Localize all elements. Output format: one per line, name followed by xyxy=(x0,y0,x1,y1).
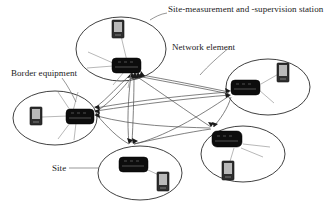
link-left-bottomright xyxy=(97,116,210,128)
intra-line-left-5 xyxy=(74,123,76,140)
intra-site-lines xyxy=(42,36,282,176)
network-topology-diagram: Site-measurement and -supervision statio… xyxy=(0,0,326,212)
intra-line-left-2 xyxy=(58,92,70,110)
inter-site-links xyxy=(95,73,231,144)
measurement-station-right-screen xyxy=(279,65,287,76)
router-bottom-right[interactable] xyxy=(212,131,242,147)
router-bottom-right-body xyxy=(212,131,242,147)
measurement-station-right-base xyxy=(280,78,286,80)
router-top-body xyxy=(112,58,141,73)
measurement-station-right[interactable] xyxy=(277,63,289,82)
measurement-station-bottom-right[interactable] xyxy=(222,161,234,180)
measurement-station-br-base xyxy=(225,176,231,178)
intra-line-br-1 xyxy=(243,144,270,147)
measurement-station-top-base xyxy=(115,34,121,36)
link-bottomcenter-bottomright xyxy=(134,129,211,144)
router-top[interactable] xyxy=(112,58,141,73)
intra-line-top-1 xyxy=(121,36,127,61)
measurement-station-left[interactable] xyxy=(30,107,42,125)
router-left-body xyxy=(66,109,94,124)
router-bottom-center-body xyxy=(119,157,148,172)
intra-line-br-2 xyxy=(241,148,263,157)
leader-line-station xyxy=(150,13,167,20)
measurement-station-left-base xyxy=(33,121,39,123)
router-right-body xyxy=(231,80,260,95)
intra-line-top-3 xyxy=(87,66,113,68)
label-border-equipment: Border equipment xyxy=(11,68,77,78)
label-network-element: Network element xyxy=(172,42,235,52)
diagram-canvas xyxy=(0,0,326,212)
label-site: Site xyxy=(52,163,66,173)
intra-line-top-4 xyxy=(113,72,124,85)
measurement-station-top-screen xyxy=(114,22,122,32)
measurement-station-br-screen xyxy=(224,163,232,174)
link-top-bottomcenter-b xyxy=(132,75,134,143)
measurement-station-bc-screen xyxy=(159,174,167,185)
link-top-right xyxy=(136,74,229,92)
router-right[interactable] xyxy=(231,80,260,95)
link-right-bottomright xyxy=(213,97,231,127)
measurement-station-bottom-center[interactable] xyxy=(157,172,169,191)
label-leader-lines xyxy=(62,13,230,168)
link-top-right-b xyxy=(137,76,229,94)
router-bottom-center[interactable] xyxy=(119,157,148,172)
site-ellipse-bottom-center xyxy=(98,146,182,200)
label-site-measurement-station: Site-measurement and -supervision statio… xyxy=(168,4,323,14)
intra-line-top-2 xyxy=(88,52,113,63)
router-left[interactable] xyxy=(66,109,94,124)
link-left-bottomcenter xyxy=(96,114,129,144)
measurement-station-top[interactable] xyxy=(112,20,124,38)
link-top-bottomright xyxy=(136,76,211,127)
leader-line-border-equipment xyxy=(62,78,76,102)
intra-line-left-4 xyxy=(58,123,70,139)
measurement-station-left-screen xyxy=(32,109,40,119)
measurement-station-bc-base xyxy=(160,187,166,189)
intra-line-left-1 xyxy=(42,116,68,117)
measurement-stations xyxy=(30,20,289,191)
intra-line-right-2 xyxy=(259,90,274,103)
